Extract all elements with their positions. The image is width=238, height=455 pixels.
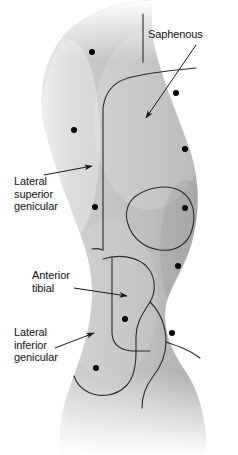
annotation-label-lateral-inferior-genicular: Lateral inferior genicular [14,326,58,364]
annotation-label-anterior-tibial: Anterior tibial [32,269,70,294]
marker-dot [169,330,175,336]
marker-dot [175,263,181,269]
annotation-label-lateral-superior-genicular: Lateral superior genicular [14,175,58,213]
leg-silhouette [0,0,238,455]
knee-illustration [0,0,238,455]
marker-dot [182,205,188,211]
marker-dot [93,365,99,371]
marker-dot [122,316,128,322]
annotation-label-saphenous: Saphenous [148,28,203,41]
anatomical-figure: Saphenous Lateral superior genicular Ant… [0,0,238,455]
marker-dot [71,127,77,133]
marker-dot [89,49,95,55]
marker-dot [92,204,98,210]
marker-dot [182,146,188,152]
marker-dot [173,90,179,96]
